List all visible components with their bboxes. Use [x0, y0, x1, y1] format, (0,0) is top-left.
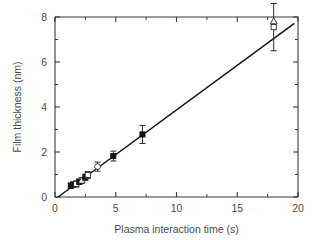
data-point-filled-square	[140, 132, 145, 137]
axis-frame	[55, 17, 298, 197]
x-tick-label: 15	[231, 202, 243, 214]
y-tick-label: 6	[41, 56, 47, 68]
figure-container: 0510152002468Plasma interaction time (s)…	[0, 0, 331, 240]
scatter-plot: 0510152002468Plasma interaction time (s)…	[0, 0, 331, 240]
y-tick-label: 8	[41, 11, 47, 23]
data-point-open-circle	[95, 164, 101, 170]
y-tick-label: 0	[41, 191, 47, 203]
y-tick-label: 4	[41, 101, 47, 113]
x-tick-label: 20	[292, 202, 304, 214]
data-point-open-square	[85, 172, 90, 177]
x-tick-label: 10	[171, 202, 183, 214]
data-point-open-triangle	[270, 18, 277, 24]
y-axis-title: Film thickness (nm)	[11, 61, 23, 152]
x-tick-label: 0	[52, 202, 58, 214]
x-axis-title: Plasma interaction time (s)	[114, 223, 238, 235]
data-point-open-square	[271, 25, 276, 30]
fit-line	[58, 23, 294, 197]
axis-spines	[55, 17, 298, 197]
x-tick-label: 5	[113, 202, 119, 214]
y-tick-label: 2	[41, 146, 47, 158]
data-point-filled-square	[111, 153, 116, 158]
